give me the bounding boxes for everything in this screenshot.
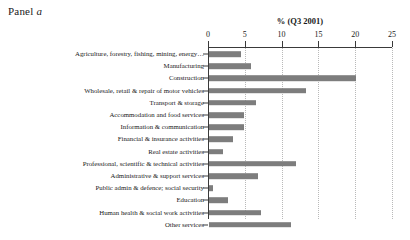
bar-row: Information & communication — [0, 121, 410, 133]
category-label: Construction — [169, 75, 204, 82]
category-label: Transport & storage — [150, 99, 205, 106]
bar-row: Wholesale, retail & repair of motor vehi… — [0, 85, 410, 97]
bar — [209, 198, 228, 204]
x-axis-title: % (Q3 2001) — [208, 16, 392, 26]
bar-row: Administrative & support services — [0, 170, 410, 182]
y-tick-mark — [203, 139, 208, 140]
bar — [209, 185, 213, 191]
y-tick-mark — [203, 200, 208, 201]
x-tick-mark — [208, 41, 209, 47]
category-label: Accommodation and food services — [109, 112, 204, 119]
x-tick-label: 25 — [388, 30, 396, 39]
y-tick-mark — [203, 151, 208, 152]
category-label: Public admin & defence; social security — [95, 185, 204, 192]
horizontal-bar-chart: Panel a % (Q3 2001) 0510152025 Agricultu… — [0, 0, 410, 240]
category-label: Wholesale, retail & repair of motor vehi… — [84, 87, 204, 94]
bar-row: Accommodation and food services — [0, 109, 410, 121]
category-label: Education — [176, 197, 204, 204]
bar — [209, 63, 251, 69]
bar-row: Agriculture, forestry, fishing, mining, … — [0, 48, 410, 60]
bar-row: Construction — [0, 72, 410, 84]
x-tick-label: 20 — [351, 30, 359, 39]
y-tick-mark — [203, 90, 208, 91]
bar-row: Manufacturing — [0, 60, 410, 72]
bar — [209, 222, 291, 228]
x-tick-label: 15 — [314, 30, 322, 39]
category-label: Other services — [165, 221, 204, 228]
bar-row: Education — [0, 194, 410, 206]
bar — [209, 76, 356, 82]
y-tick-mark — [203, 66, 208, 67]
bar — [209, 51, 241, 57]
bar-row: Real estate activities — [0, 146, 410, 158]
y-tick-mark — [203, 188, 208, 189]
bar — [209, 137, 233, 143]
y-tick-mark — [203, 212, 208, 213]
bar — [209, 112, 244, 118]
bar — [209, 210, 261, 216]
bar — [209, 161, 296, 167]
category-label: Manufacturing — [164, 63, 204, 70]
category-label: Administrative & support services — [111, 173, 204, 180]
x-tick-label: 10 — [278, 30, 286, 39]
y-tick-mark — [203, 163, 208, 164]
bar-row: Financial & insurance activities — [0, 133, 410, 145]
category-label: Information & communication — [121, 124, 204, 131]
y-tick-mark — [203, 78, 208, 79]
x-tick-mark — [355, 41, 356, 47]
category-label: Agriculture, forestry, fishing, mining, … — [75, 51, 204, 58]
category-label: Financial & insurance activities — [118, 136, 204, 143]
bar-row: Other services — [0, 219, 410, 231]
bar-row: Professional, scientific & technical act… — [0, 158, 410, 170]
bar-row: Transport & storage — [0, 97, 410, 109]
bar-row: Human health & social work activities — [0, 206, 410, 218]
x-tick-label: 5 — [243, 30, 247, 39]
y-tick-mark — [203, 102, 208, 103]
bar — [209, 124, 244, 130]
x-tick-mark — [392, 41, 393, 47]
bar-rows: Agriculture, forestry, fishing, mining, … — [0, 48, 410, 231]
bar — [209, 88, 306, 94]
category-label: Professional, scientific & technical act… — [83, 160, 204, 167]
y-tick-mark — [203, 115, 208, 116]
y-tick-mark — [203, 224, 208, 225]
panel-title-letter: a — [36, 5, 42, 17]
bar — [209, 149, 223, 155]
panel-title: Panel a — [8, 5, 42, 17]
bar — [209, 100, 256, 106]
x-tick-mark — [282, 41, 283, 47]
category-label: Real estate activities — [148, 148, 204, 155]
x-tick-label: 0 — [206, 30, 210, 39]
panel-title-prefix: Panel — [8, 5, 36, 17]
x-tick-mark — [245, 41, 246, 47]
bar-row: Public admin & defence; social security — [0, 182, 410, 194]
y-tick-mark — [203, 54, 208, 55]
bar — [209, 173, 258, 179]
category-label: Human health & social work activities — [99, 209, 204, 216]
x-tick-mark — [318, 41, 319, 47]
y-tick-mark — [203, 127, 208, 128]
y-tick-mark — [203, 175, 208, 176]
